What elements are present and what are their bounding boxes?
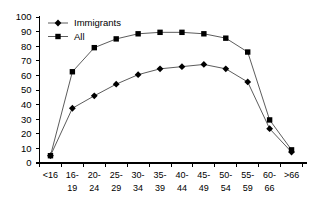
y-tick-label: 10 xyxy=(21,143,32,154)
data-point-marker-diamond xyxy=(135,71,142,78)
data-point-marker-diamond xyxy=(91,92,98,99)
y-tick-label: 30 xyxy=(21,114,32,125)
data-point-marker-diamond xyxy=(55,20,62,27)
y-tick-label: 0 xyxy=(26,157,31,168)
x-tick-label: 60-66 xyxy=(263,170,276,193)
data-point-marker-diamond xyxy=(113,81,120,88)
x-tick-label-line1: 50- xyxy=(219,170,232,180)
x-tick-label-line1: 45- xyxy=(197,170,210,180)
x-tick-label-line1: 40- xyxy=(175,170,188,180)
x-tick-label-line1: 25- xyxy=(110,170,123,180)
data-point-marker-diamond xyxy=(200,61,207,68)
line-chart-figure: 0102030405060708090100 <1616-1920-2425-2… xyxy=(0,0,316,201)
data-point-marker-square xyxy=(55,34,60,39)
x-tick-label-line2: 39 xyxy=(155,183,165,193)
data-point-marker-diamond xyxy=(157,65,164,72)
data-point-marker-diamond xyxy=(179,63,186,70)
data-point-marker-square xyxy=(289,147,294,152)
data-point-marker-diamond xyxy=(69,105,76,112)
legend-label: Immigrants xyxy=(74,17,121,28)
x-tick-label-line2: 34 xyxy=(133,183,143,193)
y-axis-tick-labels: 0102030405060708090100 xyxy=(16,11,32,168)
y-tick-label: 90 xyxy=(21,26,32,37)
series-all xyxy=(48,30,294,159)
series-line xyxy=(50,32,291,155)
data-point-marker-square xyxy=(179,30,184,35)
y-tick-label: 80 xyxy=(21,41,32,52)
x-tick-label-line1: 60- xyxy=(263,170,276,180)
x-tick-label-line2: 19 xyxy=(67,183,77,193)
x-tick-label: 25-29 xyxy=(110,170,123,193)
x-tick-label: <16 xyxy=(43,170,58,180)
x-tick-label-line2: 54 xyxy=(221,183,231,193)
x-tick-label: 50-54 xyxy=(219,170,232,193)
x-tick-label: >66 xyxy=(284,170,299,180)
data-point-marker-square xyxy=(92,45,97,50)
y-tick-label: 20 xyxy=(21,128,32,139)
x-tick-label-line1: 30- xyxy=(132,170,145,180)
y-tick-label: 50 xyxy=(21,84,32,95)
data-point-marker-diamond xyxy=(222,65,229,72)
data-point-marker-square xyxy=(201,31,206,36)
data-point-marker-square xyxy=(157,30,162,35)
legend-label: All xyxy=(74,31,85,42)
x-axis-tick-labels: <1616-1920-2425-2930-3435-3940-4445-4950… xyxy=(43,170,299,193)
x-tick-label: 16-19 xyxy=(66,170,79,193)
y-tick-label: 40 xyxy=(21,99,32,110)
chart-legend: ImmigrantsAll xyxy=(48,17,121,42)
chart-plot-area: 0102030405060708090100 <1616-1920-2425-2… xyxy=(0,0,316,201)
x-tick-label: 35-39 xyxy=(154,170,167,193)
legend-item-all: All xyxy=(48,31,85,42)
x-axis-tick-marks xyxy=(40,163,303,167)
data-point-marker-square xyxy=(267,117,272,122)
x-tick-label-line1: 55- xyxy=(241,170,254,180)
x-tick-label: 30-34 xyxy=(132,170,145,193)
x-tick-label-line1: <16 xyxy=(43,170,58,180)
x-tick-label-line1: >66 xyxy=(284,170,299,180)
data-point-marker-square xyxy=(223,35,228,40)
x-tick-label-line2: 49 xyxy=(199,183,209,193)
x-tick-label-line1: 20- xyxy=(88,170,101,180)
y-tick-label: 100 xyxy=(16,11,32,22)
data-point-marker-square xyxy=(135,31,140,36)
data-point-marker-square xyxy=(48,153,53,158)
data-point-marker-diamond xyxy=(244,79,251,86)
legend-item-immigrants: Immigrants xyxy=(48,17,121,28)
data-series-layer xyxy=(47,30,295,159)
x-tick-label-line2: 44 xyxy=(177,183,187,193)
x-tick-label-line2: 29 xyxy=(111,183,121,193)
series-immigrants xyxy=(47,61,295,159)
x-tick-label: 45-49 xyxy=(197,170,210,193)
data-point-marker-square xyxy=(114,36,119,41)
series-line xyxy=(50,64,291,155)
x-tick-label: 20-24 xyxy=(88,170,101,193)
x-tick-label-line1: 35- xyxy=(154,170,167,180)
x-tick-label: 55-59 xyxy=(241,170,254,193)
x-tick-label-line2: 59 xyxy=(243,183,253,193)
x-tick-label-line2: 24 xyxy=(89,183,99,193)
y-tick-label: 70 xyxy=(21,55,32,66)
data-point-marker-square xyxy=(70,69,75,74)
y-tick-label: 60 xyxy=(21,70,32,81)
y-axis-tick-marks xyxy=(36,17,40,163)
data-point-marker-square xyxy=(245,49,250,54)
x-tick-label-line2: 66 xyxy=(265,183,275,193)
x-tick-label-line1: 16- xyxy=(66,170,79,180)
x-tick-label: 40-44 xyxy=(175,170,188,193)
